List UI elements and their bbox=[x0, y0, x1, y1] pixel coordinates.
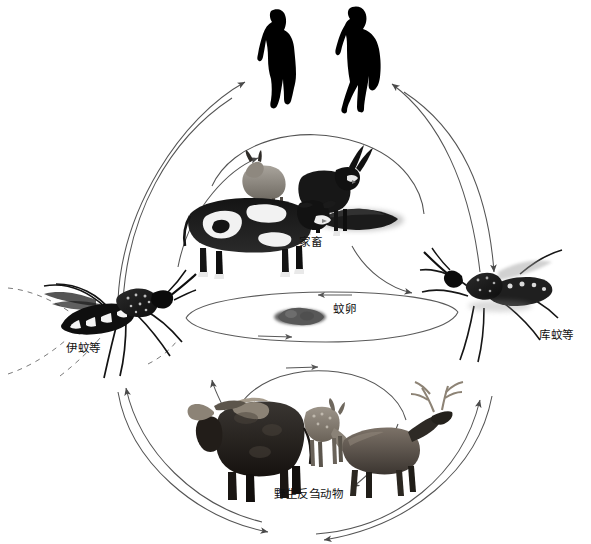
label-mosquito-eggs: 蚊卵 bbox=[333, 304, 356, 316]
human-right bbox=[335, 7, 380, 114]
label-wild-ruminants: 野生反刍动物 bbox=[274, 489, 343, 501]
diagram-artwork bbox=[0, 0, 591, 544]
livestock-group bbox=[184, 145, 404, 279]
arrow-humans-to-aedes bbox=[123, 98, 232, 302]
arc-wild-top-arrow bbox=[286, 367, 318, 368]
wild-ruminant-group bbox=[188, 382, 463, 502]
culex-mosquito bbox=[420, 248, 562, 362]
human-silhouettes bbox=[257, 7, 380, 114]
arrow-aedes-to-humans bbox=[118, 82, 245, 300]
human-left bbox=[257, 9, 296, 108]
label-aedes: 伊蚊等 bbox=[66, 343, 101, 355]
label-culex: 库蚊等 bbox=[539, 330, 574, 342]
diagram-canvas: 家畜 蚊卵 伊蚊等 库蚊等 野生反刍动物 bbox=[0, 0, 591, 544]
arrow-livestock-to-culex bbox=[352, 246, 412, 293]
arrow-humans-to-culex bbox=[404, 92, 494, 272]
egg-ellipse-bottom-arrow bbox=[258, 336, 292, 337]
label-livestock: 家畜 bbox=[299, 237, 322, 249]
aedes-mosquito bbox=[44, 270, 196, 378]
arrow-culex-to-humans bbox=[392, 84, 480, 272]
mosquito-egg-raft bbox=[274, 308, 326, 325]
